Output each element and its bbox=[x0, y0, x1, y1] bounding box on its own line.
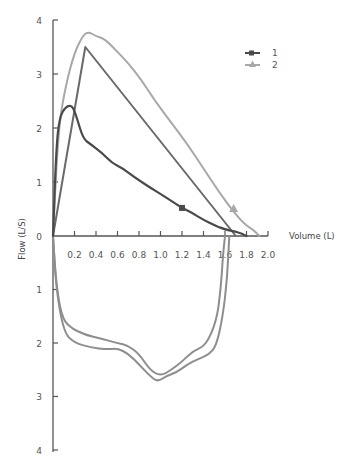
x-tick-label: 0.2 bbox=[67, 250, 81, 260]
x-tick-label: 1.4 bbox=[196, 250, 211, 260]
x-tick-label: 2.0 bbox=[261, 250, 276, 260]
series-line-2 bbox=[53, 33, 259, 236]
y-tick-label: 2 bbox=[36, 124, 42, 134]
legend-label-1: 1 bbox=[272, 48, 278, 58]
x-tick-label: 0.8 bbox=[132, 250, 147, 260]
y-tick-label: 3 bbox=[36, 392, 42, 402]
x-tick-label: 1.6 bbox=[218, 250, 233, 260]
series-line-1 bbox=[53, 106, 247, 236]
y-tick-label: 4 bbox=[36, 446, 42, 456]
x-axis-label: Volume (L) bbox=[289, 231, 335, 241]
x-tick-label: 1.2 bbox=[175, 250, 189, 260]
flow-volume-chart: 0.20.40.60.81.01.21.41.61.82.0 012341234… bbox=[0, 0, 343, 465]
series-layer bbox=[53, 33, 259, 381]
series-line-triangle-reference bbox=[53, 47, 236, 236]
y-tick-label: 2 bbox=[36, 339, 42, 349]
legend: 1 2 bbox=[245, 48, 278, 70]
square-marker-icon bbox=[249, 51, 254, 56]
legend-item-2: 2 bbox=[245, 60, 278, 70]
x-tick-label: 1.0 bbox=[153, 250, 168, 260]
y-tick-label: 1 bbox=[36, 285, 42, 295]
triangle-marker-icon bbox=[249, 61, 256, 68]
x-tick-label: 1.8 bbox=[239, 250, 254, 260]
y-tick-label: 1 bbox=[36, 178, 42, 188]
y-tick-label: 4 bbox=[36, 16, 42, 26]
square-marker-icon bbox=[179, 205, 185, 211]
y-tick-label: 3 bbox=[36, 70, 42, 80]
y-axis-label: Flow (L/S) bbox=[17, 218, 27, 260]
x-tick-label: 0.4 bbox=[89, 250, 104, 260]
x-tick-label: 0.6 bbox=[110, 250, 125, 260]
y-tick-label: 0 bbox=[36, 232, 42, 242]
legend-item-1: 1 bbox=[245, 48, 278, 58]
legend-label-2: 2 bbox=[272, 60, 278, 70]
